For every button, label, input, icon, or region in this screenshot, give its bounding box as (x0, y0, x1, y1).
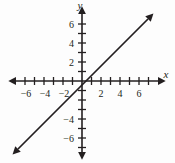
x-axis-label: x (163, 68, 169, 80)
x-tick-label-pos4: 4 (118, 88, 123, 99)
y-tick-label-neg4: −4 (63, 114, 74, 125)
x-tick-label-pos2: 2 (99, 88, 104, 99)
x-tick-label-neg2: −2 (59, 88, 70, 99)
coordinate-graph-figure: −6 −4 −2 2 4 6 6 4 2 −4 −6 x y (0, 0, 175, 163)
y-tick-label-pos6: 6 (69, 19, 74, 30)
y-tick-label-pos2: 2 (69, 57, 74, 68)
x-tick-label-neg6: −6 (21, 88, 32, 99)
x-tick-label-neg4: −4 (40, 88, 51, 99)
cartesian-plane-svg: −6 −4 −2 2 4 6 6 4 2 −4 −6 x y (0, 0, 175, 163)
y-axis-label: y (77, 0, 83, 11)
x-tick-label-pos6: 6 (137, 88, 142, 99)
y-tick-label-pos4: 4 (69, 38, 74, 49)
y-tick-label-neg6: −6 (63, 133, 74, 144)
